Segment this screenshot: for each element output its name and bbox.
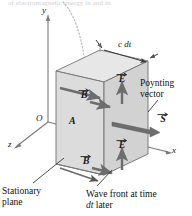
e-vector-upper-label: E: [116, 72, 128, 84]
wave-slab: [56, 50, 148, 175]
s-vector-label: S: [157, 112, 169, 124]
wavefront-callout-line2: dt later: [86, 200, 157, 211]
vector-arrow-overbar-s: [157, 112, 169, 115]
wavefront-callout-line1: Wave front at time: [86, 189, 157, 200]
b-vector-upper-label: B: [78, 88, 90, 100]
poynting-callout-line2: vector: [140, 89, 174, 100]
wavefront-later-text: later: [93, 200, 112, 210]
em-wave-figure: [0, 0, 192, 216]
axis-label-x: x: [172, 146, 176, 155]
thickness-label: c dt: [118, 40, 131, 49]
stationary-callout-line2: plane: [2, 197, 41, 208]
stationary-plane-callout: Stationary plane: [2, 186, 41, 207]
stationary-callout-line1: Stationary: [2, 186, 41, 197]
vector-arrow-overbar-b-lower: [80, 154, 92, 157]
vector-arrow-overbar-e-upper: [116, 72, 128, 75]
poynting-vector-callout: Poynting vector: [140, 78, 174, 99]
origin-label: O: [36, 114, 43, 123]
axis-label-z: z: [8, 140, 12, 149]
area-label: A: [69, 116, 76, 127]
dotted-leader-curve: [63, 2, 87, 67]
wave-front-callout: Wave front at time dt later: [86, 189, 157, 210]
e-vector-lower-label: E: [116, 138, 128, 150]
axis-label-y: y: [42, 6, 46, 15]
b-vector-lower-label: B: [80, 154, 92, 166]
poynting-callout-line1: Poynting: [140, 78, 174, 89]
vector-arrow-overbar-e-lower: [116, 138, 128, 141]
vector-arrow-overbar-b-upper: [78, 88, 90, 91]
